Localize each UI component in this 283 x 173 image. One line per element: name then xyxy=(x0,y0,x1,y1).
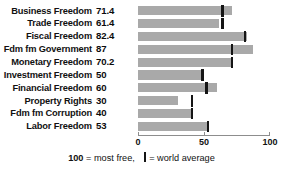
chart-row: Trade Freedom61.4 xyxy=(0,17,283,30)
value-bar xyxy=(138,6,232,15)
world-average-marker xyxy=(231,57,233,68)
category-label: Property Rights xyxy=(25,95,93,108)
category-label: Fiscal Freedom xyxy=(26,30,92,43)
category-label: Investment Freedom xyxy=(4,69,92,82)
value-label: 30 xyxy=(96,95,106,108)
world-average-marker xyxy=(221,18,223,29)
category-label: Fdm fm Government xyxy=(4,43,92,56)
world-average-marker xyxy=(205,82,207,93)
chart-row: Fiscal Freedom82.4 xyxy=(0,30,283,43)
world-average-marker xyxy=(244,31,246,42)
axis-tick xyxy=(204,132,205,136)
value-label: 40 xyxy=(96,107,106,120)
value-label: 71.4 xyxy=(96,5,114,18)
footnote-bold-number: 100 xyxy=(68,153,83,163)
chart-row: Business Freedom71.4 xyxy=(0,5,283,18)
world-average-marker xyxy=(207,121,209,132)
axis-tick-label: 50 xyxy=(199,137,209,147)
value-bar xyxy=(138,109,191,118)
chart-row: Property Rights30 xyxy=(0,95,283,108)
value-bar xyxy=(138,122,208,131)
category-label: Financial Freedom xyxy=(12,82,92,95)
world-average-marker xyxy=(191,95,193,106)
category-label: Fdm fm Corruption xyxy=(10,107,92,120)
category-label: Monetary Freedom xyxy=(11,56,92,69)
axis-tick-label: 0 xyxy=(135,137,140,147)
value-label: 50 xyxy=(96,69,106,82)
freedom-index-bar-chart: Business Freedom71.4Trade Freedom61.4Fis… xyxy=(0,0,283,173)
axis-tick xyxy=(138,132,139,136)
chart-row: Fdm fm Corruption40 xyxy=(0,107,283,120)
chart-row: Labor Freedom53 xyxy=(0,120,283,133)
chart-row: Investment Freedom50 xyxy=(0,69,283,82)
value-bar xyxy=(138,58,231,67)
value-label: 61.4 xyxy=(96,17,114,30)
value-label: 87 xyxy=(96,43,106,56)
world-average-marker xyxy=(221,5,223,16)
category-label: Labor Freedom xyxy=(26,120,92,133)
world-average-marker-icon xyxy=(144,152,146,162)
value-bar xyxy=(138,32,247,41)
value-label: 60 xyxy=(96,82,106,95)
chart-footnote: 100 = most free,= world average xyxy=(0,152,283,163)
world-average-marker xyxy=(201,69,203,80)
value-bar xyxy=(138,70,204,79)
footnote-text-before: = most free, xyxy=(83,153,134,163)
footnote-text-after: = world average xyxy=(149,153,215,163)
axis-tick xyxy=(269,132,270,136)
chart-row: Monetary Freedom70.2 xyxy=(0,56,283,69)
value-label: 82.4 xyxy=(96,30,114,43)
world-average-marker xyxy=(231,44,233,55)
value-bar xyxy=(138,19,219,28)
chart-row: Financial Freedom60 xyxy=(0,82,283,95)
value-bar xyxy=(138,45,253,54)
category-label: Trade Freedom xyxy=(27,17,92,30)
value-bar xyxy=(138,96,178,105)
chart-row: Fdm fm Government87 xyxy=(0,43,283,56)
axis-tick-label: 100 xyxy=(262,137,277,147)
value-label: 53 xyxy=(96,120,106,133)
category-label: Business Freedom xyxy=(11,5,92,18)
world-average-marker xyxy=(191,108,193,119)
value-label: 70.2 xyxy=(96,56,114,69)
